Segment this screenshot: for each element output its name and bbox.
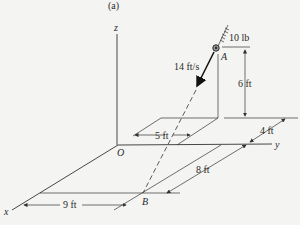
- point-b-label: B: [142, 196, 148, 207]
- dim-9-label: 9 ft: [63, 199, 77, 210]
- y-axis: [118, 144, 272, 145]
- height-label: 6 ft: [238, 78, 252, 89]
- particle-diagram: (a) z x y O 6 ft 10 lb A 14 ft/s 5 ft: [0, 0, 300, 225]
- dim-4-label: 4 ft: [260, 125, 274, 136]
- support-hatch: [218, 25, 229, 46]
- line-through-b: [114, 145, 221, 210]
- point-a-label: A: [220, 51, 228, 62]
- panel-label: (a): [108, 0, 119, 12]
- z-axis-label: z: [113, 22, 118, 33]
- weight-label: 10 lb: [229, 32, 249, 43]
- x-axis-label: x: [3, 206, 9, 217]
- velocity-arrow: [197, 52, 214, 86]
- dim-5-label: 5 ft: [155, 130, 169, 141]
- y-axis-label: y: [274, 139, 280, 150]
- dim-8-label: 8 ft: [196, 164, 210, 175]
- origin-label: O: [117, 147, 124, 158]
- velocity-label: 14 ft/s: [174, 61, 199, 72]
- particle-a-core: [215, 47, 218, 50]
- projection-line-right: [177, 118, 218, 145]
- path-a-to-b: [143, 90, 196, 193]
